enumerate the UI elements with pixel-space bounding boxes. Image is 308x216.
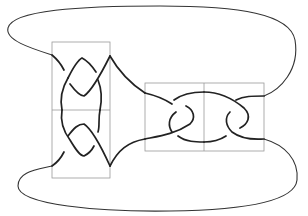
connector-bottom [110, 139, 145, 166]
right-tangle-left-cell [145, 92, 204, 142]
bottom-arc [18, 139, 297, 211]
left-tangle-bottom-cell [52, 110, 110, 166]
right-tangle-box [145, 83, 264, 151]
top-arc [8, 6, 296, 96]
knot-diagram [0, 0, 308, 216]
left-tangle-top-cell [52, 55, 110, 110]
connector-top [110, 56, 145, 93]
right-tangle-right-cell [204, 92, 264, 142]
